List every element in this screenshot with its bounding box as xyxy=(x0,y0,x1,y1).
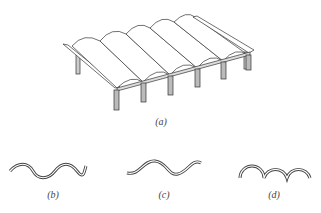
label-a: (a) xyxy=(155,116,167,127)
label-d: (d) xyxy=(268,189,280,200)
figure: (a) (b) (c) (d) xyxy=(0,0,321,213)
panel-b-corrugated-profile xyxy=(10,164,86,178)
panel-d-arch-profile xyxy=(240,166,310,178)
panel-c-wave-profile xyxy=(127,161,201,174)
label-c: (c) xyxy=(158,189,169,200)
label-b: (b) xyxy=(47,189,59,200)
panel-a-barrel-vault-roof xyxy=(63,14,254,110)
